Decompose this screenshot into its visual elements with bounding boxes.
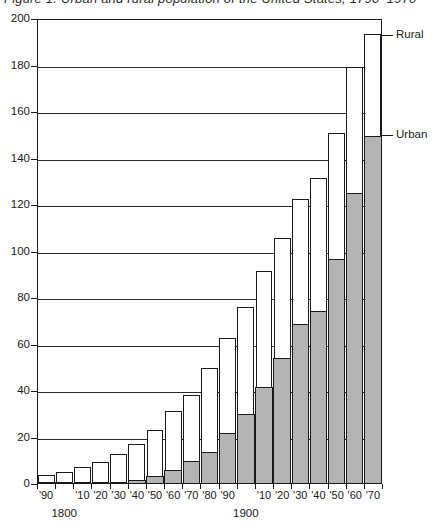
callout-label-urban: Urban [396,128,427,140]
x-axis-label-90: '90 [39,489,53,501]
urban-segment [255,387,272,485]
y-axis-label-160: 160 [11,105,30,117]
y-tick-40 [31,391,37,392]
y-axis-label-140: 140 [11,152,30,164]
urban-segment [74,482,91,484]
y-axis-label-40: 40 [17,384,30,396]
century-label-1800: 1800 [51,507,77,519]
bar-50 [328,133,345,484]
x-tick-9 [200,484,201,489]
x-axis-label-30: '30 [112,489,126,501]
bar-30 [110,454,127,484]
x-tick-0 [37,484,38,489]
urban-segment [128,480,145,484]
x-tick-7 [164,484,165,489]
x-axis-label-40: '40 [130,489,144,501]
x-tick-18 [364,484,365,489]
y-axis-label-60: 60 [17,338,30,350]
bar-1800 [56,472,73,484]
x-axis-label-90: '90 [220,489,234,501]
bar-70 [183,395,200,485]
urban-segment [237,414,254,484]
bar-50 [147,430,164,484]
y-tick-100 [31,252,37,253]
x-tick-11 [237,484,238,489]
urban-segment [219,433,236,484]
urban-segment [328,259,345,484]
bar-30 [292,199,309,485]
bar-40 [310,178,327,484]
y-tick-20 [31,438,37,439]
y-axis-label-100: 100 [11,245,30,257]
x-axis-label-20: '20 [93,489,107,501]
x-tick-15 [309,484,310,489]
x-axis-label-70: '70 [366,489,380,501]
y-tick-160 [31,112,37,113]
urban-segment [273,358,290,484]
x-tick-6 [146,484,147,489]
bar-40 [128,444,145,484]
x-axis-label-70: '70 [184,489,198,501]
population-bar-chart: 020406080100120140160180200 '90'10'20'30… [0,0,437,528]
y-axis-label-180: 180 [11,59,30,71]
urban-segment [55,482,72,484]
y-axis-label-120: 120 [11,198,30,210]
bar-60 [165,411,182,484]
y-axis-label-200: 200 [11,12,30,24]
x-tick-8 [182,484,183,489]
urban-segment [292,324,309,484]
x-tick-17 [346,484,347,489]
bar-10 [256,271,273,484]
y-axis-label-80: 80 [17,291,30,303]
x-axis-label-30: '30 [293,489,307,501]
y-tick-180 [31,66,37,67]
urban-segment [92,482,109,484]
callout-leader-urban [381,135,393,136]
urban-segment [110,482,127,485]
callout-leader-rural [381,35,393,36]
x-tick-2 [73,484,74,489]
x-tick-16 [328,484,329,489]
bar-60 [346,67,363,484]
x-axis-label-60: '60 [348,489,362,501]
urban-segment [183,461,200,484]
y-tick-140 [31,159,37,160]
y-tick-200 [31,19,37,20]
urban-segment [201,452,218,485]
urban-segment [146,476,163,484]
x-tick-14 [291,484,292,489]
bar-90 [219,338,236,484]
century-label-1900: 1900 [233,507,259,519]
y-axis-label-20: 20 [17,431,30,443]
urban-segment [346,193,363,484]
y-tick-80 [31,298,37,299]
x-tick-13 [273,484,274,489]
x-tick-10 [219,484,220,489]
bar-80 [201,368,218,484]
x-axis-label-10: '10 [75,489,89,501]
bar-20 [274,238,291,484]
bar-70 [364,34,381,484]
callout-label-rural: Rural [396,28,423,40]
urban-segment [310,311,327,484]
x-tick-5 [128,484,129,489]
urban-segment [364,136,381,484]
bar-1900 [237,307,254,484]
x-tick-end [382,484,383,489]
bar-10 [74,467,91,484]
x-axis-label-50: '50 [148,489,162,501]
x-tick-12 [255,484,256,489]
x-axis-label-20: '20 [275,489,289,501]
bar-90 [38,475,55,484]
y-axis-label-0: 0 [24,477,30,489]
gridline-180 [38,67,381,68]
x-axis-label-60: '60 [166,489,180,501]
x-axis-label-80: '80 [202,489,216,501]
x-tick-3 [91,484,92,489]
gridline-160 [38,113,381,114]
y-tick-60 [31,345,37,346]
y-tick-120 [31,205,37,206]
x-axis-label-50: '50 [329,489,343,501]
urban-segment [37,482,54,484]
x-axis-label-10: '10 [257,489,271,501]
